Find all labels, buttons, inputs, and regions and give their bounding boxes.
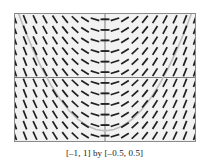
axis-range-caption: [–1, 1] by [–0.5, 0.5]: [0, 148, 209, 158]
slope-field-canvas: [15, 14, 195, 141]
plot-frame: [14, 13, 196, 142]
axes-group: [15, 14, 195, 141]
slope-field-figure: [–1, 1] by [–0.5, 0.5]: [0, 0, 209, 167]
